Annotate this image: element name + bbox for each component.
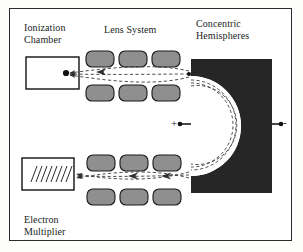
lens-electrodes-upper	[86, 51, 180, 101]
figure-root: Ionization Chamber Lens System Concentri…	[0, 0, 303, 252]
analyzer-entrance-point	[187, 72, 191, 76]
positive-terminal-lead	[178, 122, 191, 127]
lens-electrodes-lower	[87, 155, 181, 205]
diagram-canvas	[0, 0, 303, 252]
ion-source-point	[63, 70, 69, 76]
negative-terminal-lead	[272, 122, 283, 127]
concentric-hemispheres-block	[191, 59, 272, 193]
electron-multiplier-box	[22, 158, 74, 190]
